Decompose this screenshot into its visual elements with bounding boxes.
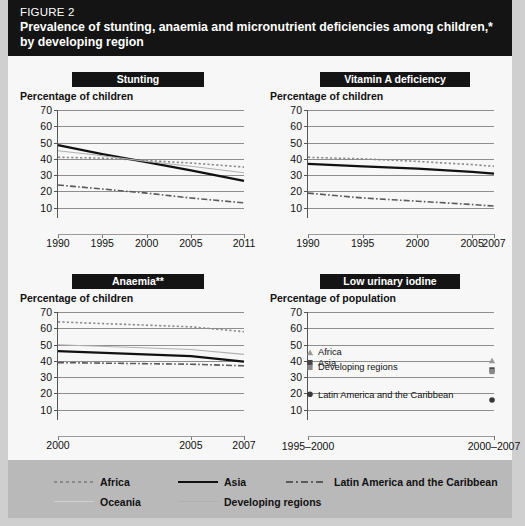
y-tick-label: 40	[280, 356, 302, 366]
series-line	[308, 164, 494, 174]
y-tick-label: 10	[280, 405, 302, 415]
y-tick-label: 60	[280, 323, 302, 333]
y-tick-label: 30	[30, 170, 52, 180]
chart-panel-vitamin-a-deficiency: Vitamin A deficiencyPercentage of childr…	[260, 58, 510, 260]
x-tick-label: 2000	[34, 440, 82, 451]
series-line	[308, 193, 494, 206]
legend-line-oceania	[54, 501, 94, 502]
series-layer	[58, 102, 244, 238]
y-tick-label: 30	[280, 372, 302, 382]
figure-header: FIGURE 2 Prevalence of stunting, anaemia…	[8, 0, 512, 56]
plot-area: 102030405060701995–20002000–2007AfricaAs…	[308, 304, 494, 426]
y-tick-label: 30	[280, 170, 302, 180]
y-tick-label: 40	[30, 154, 52, 164]
data-point-marker	[307, 350, 313, 356]
x-tick-label: 1995	[78, 238, 126, 249]
y-tick-label: 60	[280, 121, 302, 131]
x-tick-mark	[244, 234, 245, 238]
y-axis-title: Percentage of population	[270, 292, 396, 304]
y-tick-label: 10	[280, 203, 302, 213]
series-layer	[308, 304, 494, 440]
y-tick-label: 50	[30, 340, 52, 350]
chart-panel-anaemia: Anaemia**Percentage of children102030405…	[10, 260, 260, 460]
y-axis-title: Percentage of children	[20, 90, 133, 102]
x-tick-label: 2005	[167, 440, 215, 451]
y-tick-label: 40	[280, 154, 302, 164]
y-tick-label: 20	[280, 388, 302, 398]
y-tick-label: 70	[280, 307, 302, 317]
y-tick-label: 20	[280, 186, 302, 196]
series-line	[58, 185, 244, 203]
y-tick-label: 70	[280, 105, 302, 115]
legend-label-africa[interactable]: Africa	[100, 476, 130, 488]
legend-line-asia	[178, 481, 218, 483]
data-point-marker	[489, 358, 495, 364]
y-tick-label: 60	[30, 121, 52, 131]
y-tick-label: 30	[30, 372, 52, 382]
legend-label-asia[interactable]: Asia	[224, 476, 246, 488]
data-point-marker	[307, 391, 313, 397]
chart-title-banner: Vitamin A deficiency	[320, 72, 470, 87]
series-line	[58, 351, 244, 362]
y-tick-label: 60	[30, 323, 52, 333]
legend-label-oceania[interactable]: Oceania	[100, 496, 141, 508]
legend-label-developing-regions[interactable]: Developing regions	[224, 496, 321, 508]
x-tick-mark	[494, 234, 495, 238]
y-tick-label: 50	[280, 138, 302, 148]
series-line	[58, 145, 244, 181]
plot-area: 10203040506070200020052007	[58, 304, 244, 426]
charts-canvas: StuntingPercentage of children1020304050…	[8, 56, 512, 460]
plot-area: 1020304050607019901995200020052011	[58, 102, 244, 224]
x-tick-label: 1995	[339, 238, 387, 249]
series-line	[58, 151, 244, 173]
chart-panel-stunting: StuntingPercentage of children1020304050…	[10, 58, 260, 260]
series-layer	[308, 102, 494, 238]
x-tick-mark	[494, 436, 495, 440]
x-tick-label: 2000	[123, 238, 171, 249]
legend-label-latin-america-and-the-caribbean[interactable]: Latin America and the Caribbean	[334, 476, 498, 488]
y-tick-label: 40	[30, 356, 52, 366]
y-tick-label: 70	[30, 307, 52, 317]
data-point-marker	[489, 397, 495, 403]
legend-line-africa	[54, 481, 94, 483]
y-axis-title: Percentage of children	[20, 292, 133, 304]
x-tick-label: 1995–2000	[276, 441, 340, 452]
x-tick-label: 1990	[284, 238, 332, 249]
data-point-marker	[489, 369, 494, 374]
figure-title-line-2: by developing region	[20, 35, 500, 50]
y-axis-title: Percentage of children	[270, 90, 383, 102]
y-tick-label: 10	[30, 203, 52, 213]
y-tick-label: 20	[30, 388, 52, 398]
x-tick-label: 2000	[393, 238, 441, 249]
x-tick-label: 2005	[167, 238, 215, 249]
x-tick-mark	[244, 436, 245, 440]
y-tick-label: 50	[280, 340, 302, 350]
figure-title-line-1: Prevalence of stunting, anaemia and micr…	[20, 20, 500, 35]
legend-line-developing-regions	[178, 501, 218, 502]
plot-area: 1020304050607019901995200020052007	[308, 102, 494, 224]
legend-line-latin-america-and-the-caribbean	[286, 481, 326, 483]
data-point-marker	[307, 360, 312, 365]
data-point-marker	[307, 365, 312, 370]
series-line	[58, 363, 244, 366]
figure-title: Prevalence of stunting, anaemia and micr…	[20, 20, 500, 50]
y-tick-label: 70	[30, 105, 52, 115]
x-tick-label: 1990	[34, 238, 82, 249]
y-tick-label: 10	[30, 405, 52, 415]
y-tick-label: 50	[30, 138, 52, 148]
x-tick-label: 2000–2007	[462, 441, 525, 452]
figure-number: FIGURE 2	[20, 5, 500, 19]
series-layer	[58, 304, 244, 440]
chart-title-banner: Low urinary iodine	[320, 274, 460, 289]
chart-title-banner: Anaemia**	[72, 274, 204, 289]
chart-panel-low-urinary-iodine: Low urinary iodinePercentage of populati…	[260, 260, 510, 460]
x-tick-label: 2007	[470, 238, 518, 249]
series-line	[58, 322, 244, 332]
y-tick-label: 20	[30, 186, 52, 196]
chart-title-banner: Stunting	[72, 72, 204, 87]
figure-legend: AfricaAsiaLatin America and the Caribbea…	[8, 460, 512, 518]
